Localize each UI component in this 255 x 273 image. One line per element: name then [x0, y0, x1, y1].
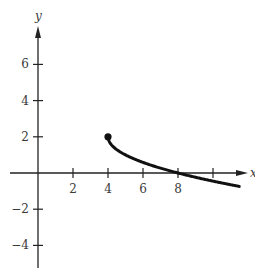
x-tick-label: 2 [69, 182, 77, 196]
y-axis-label: y [34, 9, 42, 23]
y-tick-label: 6 [21, 57, 29, 71]
y-tick-label: 4 [21, 94, 29, 108]
y-tick-label: 2 [21, 130, 29, 144]
y-tick-label: −4 [11, 238, 29, 252]
y-axis-arrow-icon [35, 26, 41, 38]
x-axis-label: x [250, 166, 255, 180]
x-tick-label: 6 [139, 182, 147, 196]
series-curve [108, 137, 239, 187]
chart: y x 2468 642−2−4 [0, 0, 255, 273]
x-tick-label: 8 [174, 182, 182, 196]
curve-start-point [104, 133, 111, 140]
y-tick-label: −2 [11, 202, 29, 216]
x-ticks: 2468 [69, 168, 213, 196]
x-axis-arrow-icon [236, 170, 248, 176]
x-tick-label: 4 [104, 182, 112, 196]
